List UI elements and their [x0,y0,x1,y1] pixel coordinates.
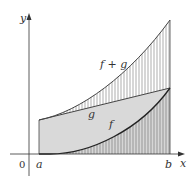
area-diagram: y x 0 a b f + g g f [0,0,191,183]
curve-g-label: g [88,108,95,121]
interval-b-label: b [165,158,172,171]
interval-a-label: a [36,158,43,171]
curve-f-plus-g-label: f + g [99,58,127,71]
y-axis-label: y [19,12,27,25]
x-axis-arrow-icon [178,152,185,157]
origin-label: 0 [19,159,25,170]
y-axis-arrow-icon [27,13,32,20]
x-axis-label: x [180,157,187,170]
